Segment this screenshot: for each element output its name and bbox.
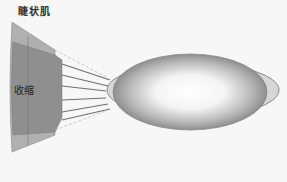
zonule-fibers	[62, 64, 110, 120]
ciliary-muscle-label: 睫状肌	[18, 3, 51, 18]
lens	[113, 54, 267, 130]
contract-label: 收缩	[14, 82, 34, 97]
ciliary-muscle-lens-diagram	[0, 0, 287, 182]
